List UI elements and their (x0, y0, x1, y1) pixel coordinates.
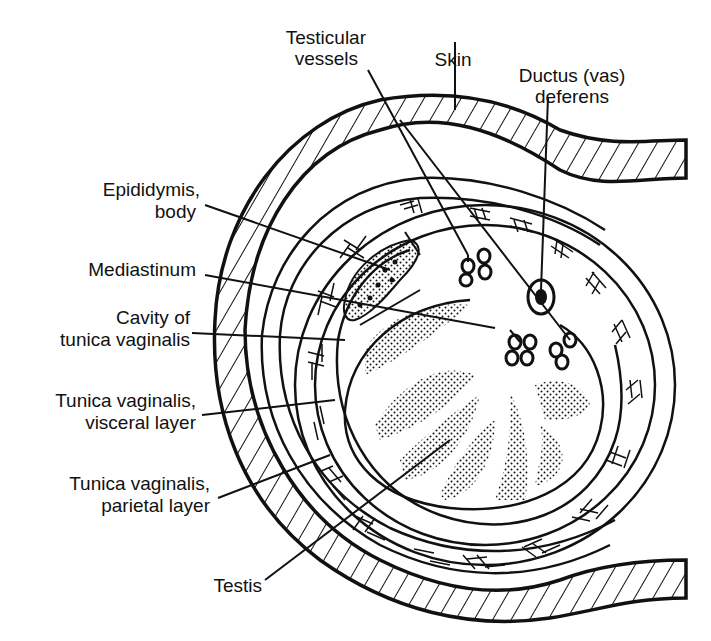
label-parietal-layer: Tunica vaginalis,parietal layer (69, 473, 210, 516)
label-testis: Testis (213, 575, 262, 596)
label-epididymis-body: Epididymis,body (103, 179, 200, 222)
epididymis-body (344, 232, 420, 325)
label-visceral-layer: Tunica vaginalis,visceral layer (55, 390, 196, 433)
testicular-vessels (460, 249, 576, 369)
seminiferous-lobules (365, 304, 590, 500)
testis-cross-section-diagram: Testicularvessels Skin Ductus (vas)defer… (0, 0, 711, 641)
label-ductus-deferens: Ductus (vas)deferens (519, 65, 626, 107)
label-testicular-vessels: Testicularvessels (286, 27, 367, 69)
label-skin: Skin (435, 49, 472, 70)
label-cavity-tunica-vaginalis: Cavity oftunica vaginalis (60, 307, 191, 350)
label-mediastinum: Mediastinum (88, 259, 196, 280)
